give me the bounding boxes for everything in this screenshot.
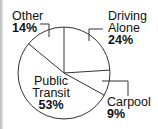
label-other: Other 14% (12, 10, 43, 34)
label-driving-alone: Driving Alone 24% (108, 10, 147, 46)
label-carpool: Carpool 9% (107, 96, 151, 120)
label-public-transit: Public Transit 53% (30, 75, 72, 111)
